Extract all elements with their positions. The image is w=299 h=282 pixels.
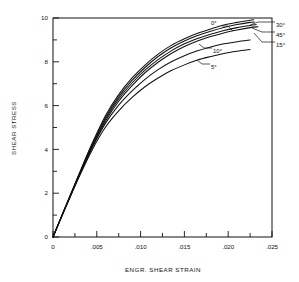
chart-figure: 0.005.010.015.020.025 0246810 0°30°45°15… (0, 0, 299, 282)
shear-stress-strain-chart: 0.005.010.015.020.025 0246810 0°30°45°15… (0, 0, 299, 282)
curve-label-15deg: 15° (276, 42, 286, 48)
y-tick-label: 2 (45, 189, 49, 196)
x-tick-label: .020 (222, 243, 235, 250)
y-tick-label: 8 (45, 58, 49, 65)
x-axis-title: ENGR. SHEAR STRAIN (125, 266, 201, 273)
y-axis-title: SHEAR STRESS (10, 101, 17, 155)
curve-label-0deg: 0° (211, 20, 217, 26)
curve-label-5deg: 5° (211, 64, 217, 70)
x-tick-label: .010 (135, 243, 148, 250)
y-tick-label: 4 (45, 146, 49, 153)
y-tick-label: 0 (45, 233, 49, 240)
curve-label-30deg: 30° (276, 22, 286, 28)
x-tick-label: .005 (91, 243, 104, 250)
y-tick-label: 10 (41, 14, 48, 21)
x-tick-label: 0 (51, 243, 55, 250)
curve-label-10deg: 10° (213, 48, 223, 54)
y-tick-label: 6 (45, 102, 49, 109)
curve-label-45deg: 45° (276, 32, 286, 38)
x-tick-label: .015 (178, 243, 191, 250)
x-tick-label: .025 (266, 243, 279, 250)
